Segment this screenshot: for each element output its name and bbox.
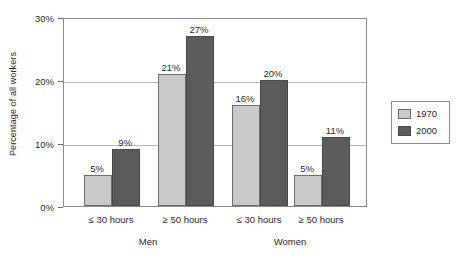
bar-value-1970-3: 5% — [300, 163, 314, 174]
category-label-2: ≤ 30 hours — [237, 214, 282, 225]
bar-value-1970-1: 21% — [161, 62, 180, 73]
bar-1970-2 — [232, 105, 260, 206]
bar-value-2000-3: 11% — [326, 125, 344, 136]
bar-2000-0 — [112, 149, 140, 206]
legend-item-2000[interactable]: 2000 — [398, 124, 444, 138]
bar-2000-3 — [322, 137, 350, 206]
bar-value-1970-0: 5% — [90, 163, 104, 174]
bar-value-1970-2: 16% — [235, 93, 254, 104]
category-label-3: ≥ 50 hours — [299, 214, 344, 225]
gridline-20 — [64, 82, 366, 83]
plot-area — [63, 18, 367, 207]
bar-1970-3 — [294, 175, 322, 207]
y-tick-label-0: 0% — [20, 202, 54, 213]
category-label-1: ≥ 50 hours — [163, 214, 208, 225]
y-axis-title-text: Percentage of all workers — [8, 51, 18, 155]
legend: 1970 2000 — [391, 101, 450, 144]
legend-swatch-2000 — [398, 126, 411, 136]
bar-value-2000-0: 9% — [118, 137, 132, 148]
y-tick-label-30: 30% — [20, 13, 54, 24]
group-label-women: Women — [274, 236, 307, 247]
bar-chart: Percentage of all workers 0%10%20%30% 5%… — [0, 0, 458, 259]
y-tick-label-10: 10% — [20, 139, 54, 150]
bar-1970-1 — [158, 74, 186, 206]
bar-2000-1 — [186, 36, 214, 206]
category-label-0: ≤ 30 hours — [89, 214, 134, 225]
y-axis-title: Percentage of all workers — [5, 0, 21, 207]
legend-label-1970: 1970 — [416, 109, 437, 119]
bar-value-2000-1: 27% — [189, 24, 208, 35]
bar-value-2000-2: 20% — [263, 68, 282, 79]
y-tick-label-20: 20% — [20, 76, 54, 87]
legend-item-1970[interactable]: 1970 — [398, 107, 444, 121]
group-label-men: Men — [139, 236, 157, 247]
bar-1970-0 — [84, 175, 112, 207]
gridline-10 — [64, 145, 366, 146]
legend-swatch-1970 — [398, 109, 411, 119]
y-tick-mark-0 — [58, 207, 63, 208]
bar-2000-2 — [260, 80, 288, 206]
legend-label-2000: 2000 — [416, 126, 437, 136]
